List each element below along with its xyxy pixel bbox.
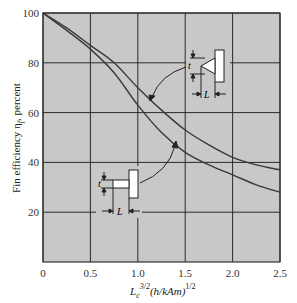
- tri-dim-L: L: [203, 89, 210, 100]
- y-tick-label: 20: [28, 206, 40, 218]
- rect-dim-L: L: [116, 206, 123, 217]
- x-tick-label: 2.5: [273, 267, 287, 279]
- x-tick-label: 0: [40, 267, 46, 279]
- x-axis-label: Lc3/2(h/kAm)1/2: [129, 282, 196, 300]
- x-tick-label: 2.0: [226, 267, 240, 279]
- rect-dim-t: t: [98, 178, 101, 189]
- x-tick-labels: 00.51.01.52.02.5: [40, 267, 287, 279]
- x-tick-label: 1.5: [178, 267, 192, 279]
- x-tick-label: 1.0: [131, 267, 145, 279]
- tri-dim-t: t: [188, 60, 191, 71]
- y-tick-label: 80: [28, 57, 40, 69]
- y-tick-labels: 20406080100: [23, 7, 40, 218]
- y-axis-label: Fin efficiency ηf, percent: [10, 83, 25, 193]
- plot-area: [43, 13, 280, 262]
- y-tick-label: 40: [28, 156, 40, 168]
- y-tick-label: 60: [28, 107, 40, 119]
- x-tick-label: 0.5: [84, 267, 98, 279]
- fin-efficiency-chart: 20406080100 00.51.01.52.02.5 Fin efficie…: [0, 0, 297, 303]
- y-tick-label: 100: [23, 7, 40, 19]
